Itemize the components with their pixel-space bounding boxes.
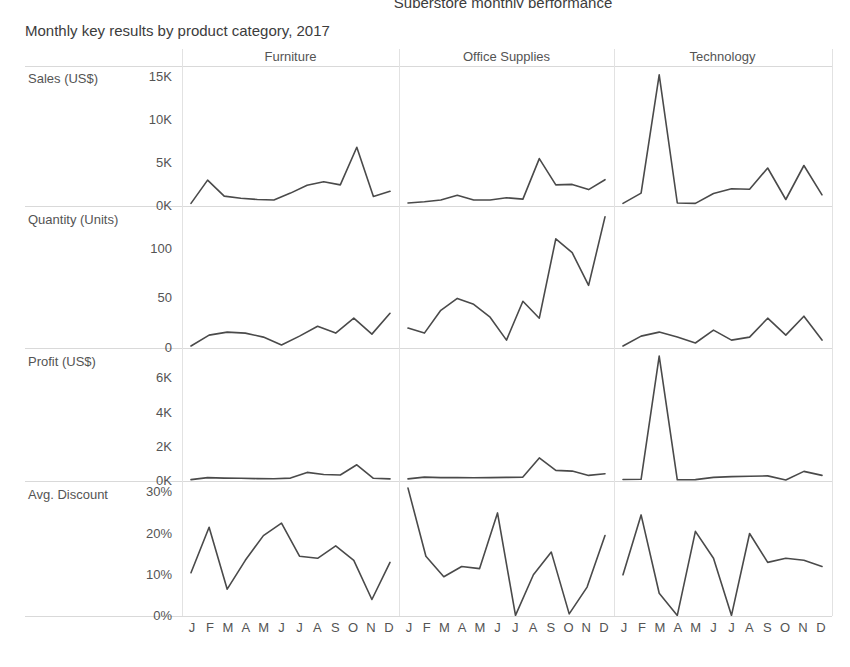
series-line [615, 351, 830, 481]
series-line [183, 209, 398, 348]
x-tick-label: O [346, 619, 360, 637]
panel-discount-office-supplies[interactable] [400, 484, 613, 616]
x-tick-label: N [364, 619, 378, 637]
panel-discount-furniture[interactable] [183, 484, 398, 616]
series-line [183, 484, 398, 616]
series-line [400, 209, 613, 348]
x-tick-label: N [579, 619, 593, 637]
x-tick-label: J [275, 619, 289, 637]
y-tick-label: 20% [110, 529, 172, 539]
x-tick-label: F [420, 619, 434, 637]
series-line [615, 484, 830, 616]
y-tick-label: 2K [110, 442, 172, 452]
x-tick-label: M [653, 619, 667, 637]
x-tick-label: D [814, 619, 828, 637]
column-divider [832, 49, 833, 616]
panel-quantity-furniture[interactable] [183, 209, 398, 348]
x-tick-label: M [689, 619, 703, 637]
row-label-discount: Avg. Discount [28, 487, 108, 502]
panel-sales-technology[interactable] [615, 68, 830, 206]
y-tick-label: 5K [110, 158, 172, 168]
x-tick-label: F [203, 619, 217, 637]
y-tick-label: 15K [110, 72, 172, 82]
x-axis-months-technology: JFMAMJJASOND [617, 619, 828, 637]
x-tick-label: J [402, 619, 416, 637]
column-header-furniture: Furniture [183, 49, 398, 65]
y-tick-label: 10K [110, 115, 172, 125]
row-label-profit: Profit (US$) [28, 354, 96, 369]
y-tick-label: 50 [110, 293, 172, 303]
x-tick-label: J [491, 619, 505, 637]
chart-canvas: Superstore monthly performance Monthly k… [0, 0, 850, 667]
x-tick-label: O [561, 619, 575, 637]
x-tick-label: N [796, 619, 810, 637]
x-tick-label: J [707, 619, 721, 637]
x-tick-label: J [185, 619, 199, 637]
panel-quantity-office-supplies[interactable] [400, 209, 613, 348]
x-tick-label: O [778, 619, 792, 637]
panel-sales-office-supplies[interactable] [400, 68, 613, 206]
y-tick-label: 30% [110, 487, 172, 497]
x-tick-label: D [597, 619, 611, 637]
y-tick-label: 6K [110, 373, 172, 383]
x-tick-label: D [382, 619, 396, 637]
column-header-office-supplies: Office Supplies [400, 49, 613, 65]
x-axis-months-furniture: JFMAMJJASOND [185, 619, 396, 637]
x-tick-label: F [635, 619, 649, 637]
panel-profit-office-supplies[interactable] [400, 351, 613, 481]
panel-quantity-technology[interactable] [615, 209, 830, 348]
series-line [183, 68, 398, 206]
row-label-quantity: Quantity (Units) [28, 212, 118, 227]
panel-sales-furniture[interactable] [183, 68, 398, 206]
column-header-technology: Technology [615, 49, 830, 65]
series-line [400, 351, 613, 481]
x-tick-label: S [760, 619, 774, 637]
series-line [615, 209, 830, 348]
x-tick-label: S [328, 619, 342, 637]
clipped-main-title: Superstore monthly performance [183, 0, 823, 8]
x-tick-label: M [437, 619, 451, 637]
panel-profit-furniture[interactable] [183, 351, 398, 481]
x-tick-label: A [239, 619, 253, 637]
x-tick-label: M [473, 619, 487, 637]
panel-discount-technology[interactable] [615, 484, 830, 616]
y-tick-label: 0% [110, 611, 172, 621]
x-axis-months-office-supplies: JFMAMJJASOND [402, 619, 611, 637]
chart-subtitle: Monthly key results by product category,… [25, 22, 330, 39]
x-tick-label: A [455, 619, 469, 637]
x-tick-label: J [617, 619, 631, 637]
y-tick-label: 10% [110, 570, 172, 580]
x-tick-label: A [526, 619, 540, 637]
series-line [183, 351, 398, 481]
x-tick-label: M [221, 619, 235, 637]
series-line [615, 68, 830, 206]
x-tick-label: A [742, 619, 756, 637]
y-tick-label: 0K [110, 201, 172, 211]
x-tick-label: S [544, 619, 558, 637]
x-tick-label: A [310, 619, 324, 637]
x-tick-label: M [257, 619, 271, 637]
series-line [400, 484, 613, 616]
x-tick-label: A [671, 619, 685, 637]
x-tick-label: J [724, 619, 738, 637]
x-tick-label: J [508, 619, 522, 637]
series-line [400, 68, 613, 206]
panel-profit-technology[interactable] [615, 351, 830, 481]
row-divider [25, 66, 832, 67]
y-tick-label: 4K [110, 408, 172, 418]
y-tick-label: 0 [110, 343, 172, 353]
y-tick-label: 100 [110, 244, 172, 254]
x-tick-label: J [292, 619, 306, 637]
row-label-sales: Sales (US$) [28, 71, 98, 86]
